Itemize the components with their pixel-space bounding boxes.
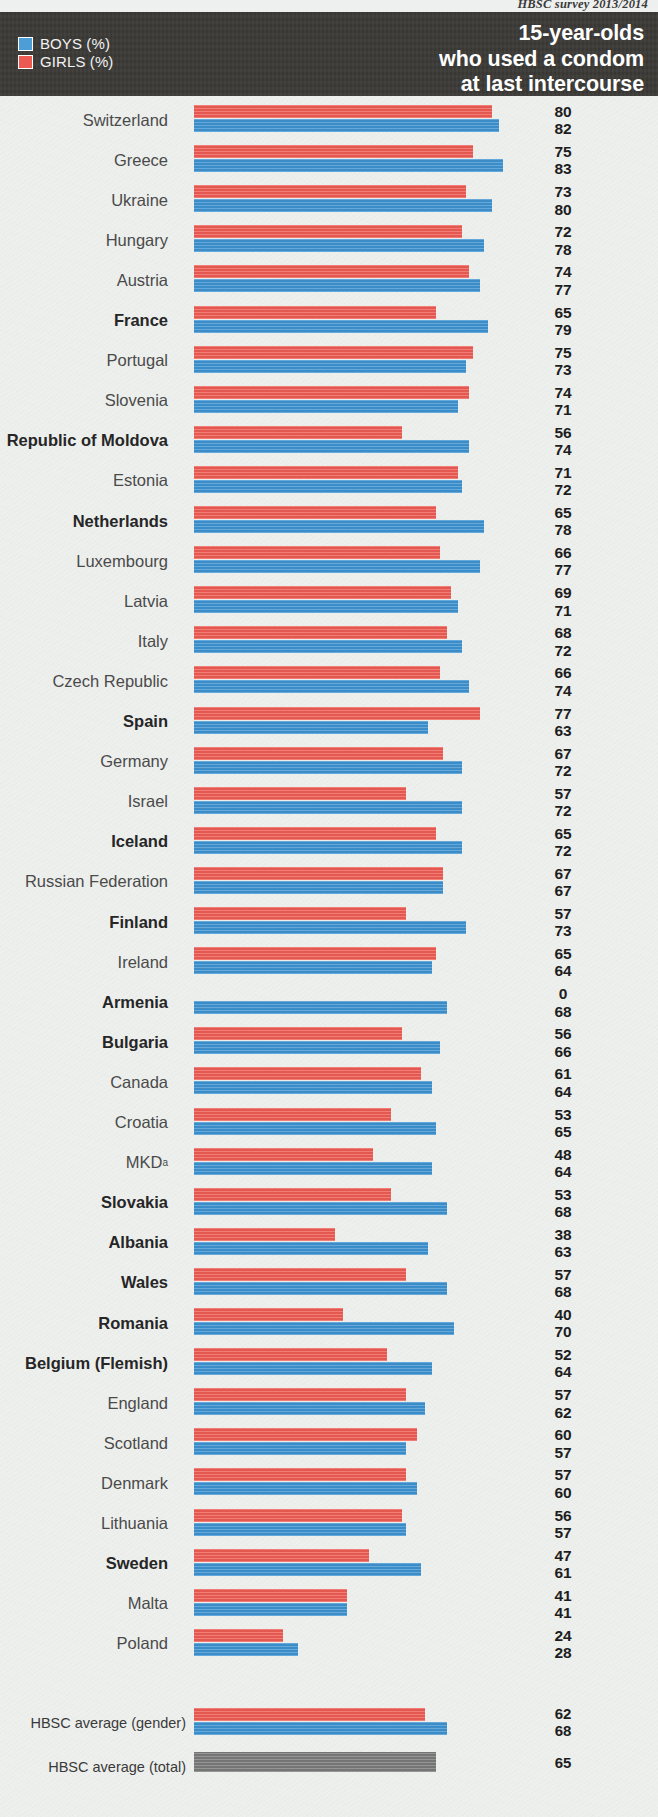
legend-label-girls: GIRLS (%) [40,54,113,69]
value-boys: 78 [498,521,628,538]
bar-boys [194,1041,440,1054]
row-label-albania: Albania [0,1223,180,1263]
bar-boys [194,600,458,613]
value-boys: 82 [498,120,628,137]
bar-boys [194,480,462,493]
table-row: Scotland6057 [0,1423,658,1463]
table-row: Finland5773 [0,902,658,942]
table-row: Netherlands6578 [0,501,658,541]
value-girls: 61 [498,1065,628,1082]
bar-boys [194,1081,432,1094]
value-girls: 57 [498,905,628,922]
row-label-netherlands: Netherlands [0,501,180,541]
bar-boys [194,239,484,252]
table-row: Romania4070 [0,1303,658,1343]
bar-girls [194,1468,406,1481]
row-values: 7471 [498,384,628,419]
bar-girls [194,105,492,118]
value-girls: 53 [498,1106,628,1123]
table-row: Belgium (Flemish)5264 [0,1343,658,1383]
bar-total [194,1752,436,1772]
table-row: Italy6872 [0,621,658,661]
bar-girls [194,827,436,840]
value-girls: 57 [498,1386,628,1403]
value-girls: 65 [498,504,628,521]
table-row: Lithuania5657 [0,1504,658,1544]
row-values: 6772 [498,745,628,780]
value-boys: 71 [498,602,628,619]
bar-girls [194,1708,425,1721]
bar-girls [194,1549,369,1562]
value-girls: 57 [498,1466,628,1483]
row-values: 6579 [498,304,628,339]
table-row: Bulgaria5666 [0,1022,658,1062]
table-row: Germany6772 [0,742,658,782]
value-girls: 40 [498,1306,628,1323]
bar-girls [194,1308,343,1321]
bar-boys [194,1482,417,1495]
bar-girls [194,747,443,760]
row-label-italy: Italy [0,621,180,661]
value-boys: 66 [498,1043,628,1060]
value-boys: 79 [498,321,628,338]
page-title: 15-year-olds who used a condom at last i… [439,21,644,96]
row-values: 6971 [498,584,628,619]
bar-boys [194,680,469,693]
bar-girls [194,1348,387,1361]
table-row: Republic of Moldova5674 [0,421,658,461]
bar-girls [194,907,406,920]
bar-girls [194,145,473,158]
value-boys: 77 [498,561,628,578]
bar-boys [194,1242,428,1255]
table-row: Slovakia5368 [0,1183,658,1223]
row-values: 5768 [498,1266,628,1301]
bar-girls [194,1067,421,1080]
bar-boys [194,640,462,653]
row-values: 6674 [498,664,628,699]
bar-girls [194,586,451,599]
bar-girls [194,185,466,198]
value-boys: 63 [498,722,628,739]
bar-boys [194,1603,347,1616]
bar-boys [194,1402,425,1415]
bar-boys [194,360,466,373]
table-row: Portugal7573 [0,341,658,381]
bar-boys [194,881,443,894]
value-boys: 70 [498,1323,628,1340]
table-row: Russian Federation6767 [0,862,658,902]
bar-girls [194,1589,347,1602]
table-row: Croatia5365 [0,1103,658,1143]
row-values: 5674 [498,424,628,459]
row-values: 4070 [498,1306,628,1341]
average-row: HBSC average (gender)6268 [0,1703,658,1743]
table-row: Wales5768 [0,1263,658,1303]
row-label-austria: Austria [0,260,180,300]
value-boys: 72 [498,642,628,659]
value-girls: 66 [498,544,628,561]
value-boys: 65 [498,1123,628,1140]
legend-swatch-girls-icon [18,55,33,69]
average-values: 6268 [498,1706,628,1740]
title-line-1: 15-year-olds [439,21,644,47]
row-values: 6572 [498,825,628,860]
table-row: England5762 [0,1383,658,1423]
row-values: 6767 [498,865,628,900]
table-row: Poland2428 [0,1624,658,1664]
table-row: Ukraine7380 [0,180,658,220]
table-row: MKDa4864 [0,1143,658,1183]
value-girls: 74 [498,384,628,401]
bar-girls [194,1509,402,1522]
row-values: 6872 [498,624,628,659]
row-label-mkd: MKDa [0,1143,180,1183]
bar-boys [194,761,462,774]
row-label-slovakia: Slovakia [0,1183,180,1223]
row-label-lithuania: Lithuania [0,1504,180,1544]
bar-boys [194,921,466,934]
row-label-armenia: Armenia [0,982,180,1022]
title-line-3: at last intercourse [439,72,644,96]
value-boys: 77 [498,281,628,298]
value-boys: 64 [498,1083,628,1100]
row-label-greece: Greece [0,140,180,180]
bar-boys [194,560,480,573]
value-girls: 57 [498,1266,628,1283]
